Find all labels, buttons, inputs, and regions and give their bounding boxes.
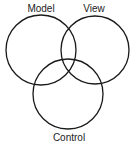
view-circle: [61, 16, 129, 84]
model-circle: [6, 15, 76, 85]
model-label: Model: [27, 3, 54, 14]
venn-diagram: Model View Control: [0, 0, 138, 144]
view-label: View: [83, 3, 105, 14]
control-label: Control: [53, 132, 85, 143]
control-circle: [33, 59, 103, 129]
